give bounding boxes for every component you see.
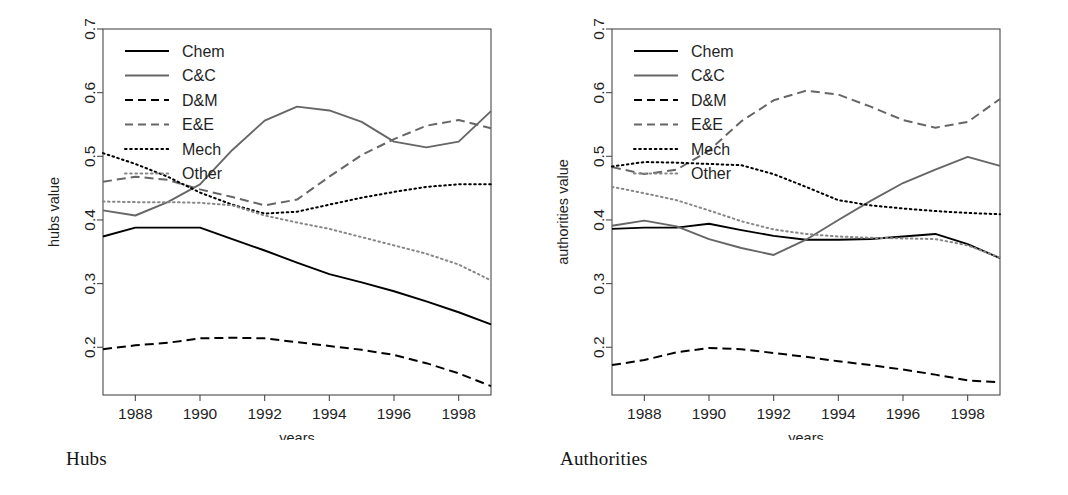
series-line-d-m xyxy=(103,338,491,386)
series-line-other xyxy=(612,187,1000,258)
x-axis-tick-label: 1998 xyxy=(950,405,984,422)
y-axis-tick-label: 0.2 xyxy=(590,336,607,358)
y-axis-title: hubs value xyxy=(46,177,62,247)
y-axis-tick-label: 0.3 xyxy=(590,273,607,295)
hubs-plot-svg: 0.20.30.40.50.60.71988199019921994199619… xyxy=(0,0,534,440)
y-axis-tick-label: 0.7 xyxy=(590,18,607,40)
figure-container: 0.20.30.40.50.60.71988199019921994199619… xyxy=(0,0,1068,495)
series-line-chem xyxy=(103,228,491,325)
x-axis-tick-label: 1994 xyxy=(312,405,347,422)
panel-caption-hubs: Hubs xyxy=(66,448,107,470)
legend-label: D&M xyxy=(182,92,218,109)
legend-label: Mech xyxy=(691,141,730,158)
series-line-other xyxy=(103,202,491,281)
legend-label: Other xyxy=(182,165,223,182)
y-axis-tick-label: 0.6 xyxy=(81,82,98,104)
series-line-e-e xyxy=(612,91,1000,174)
legend-label: C&C xyxy=(182,67,216,84)
chart-panel-hubs: 0.20.30.40.50.60.71988199019921994199619… xyxy=(0,0,534,495)
chart-panel-authorities: 0.20.30.40.50.60.71988199019921994199619… xyxy=(534,0,1068,495)
y-axis-title: authorities value xyxy=(555,159,571,265)
x-axis-tick-label: 1992 xyxy=(756,405,790,422)
legend-label: Chem xyxy=(182,43,225,60)
x-axis-tick-label: 1990 xyxy=(183,405,218,422)
x-axis-tick-label: 1998 xyxy=(441,405,475,422)
series-line-d-m xyxy=(612,348,1000,382)
x-axis-title: years xyxy=(788,430,823,440)
y-axis-tick-label: 0.2 xyxy=(81,336,98,358)
x-axis-tick-label: 1990 xyxy=(692,405,727,422)
y-axis-tick-label: 0.5 xyxy=(590,146,607,168)
x-axis-tick-label: 1996 xyxy=(377,405,411,422)
x-axis-title: years xyxy=(279,430,314,440)
legend-label: Mech xyxy=(182,141,221,158)
y-axis-tick-label: 0.3 xyxy=(81,273,98,295)
y-axis-tick-label: 0.5 xyxy=(81,146,98,168)
y-axis-tick-label: 0.7 xyxy=(81,18,98,40)
legend-label: E&E xyxy=(691,116,723,133)
series-line-e-e xyxy=(103,120,491,205)
panel-caption-authorities: Authorities xyxy=(560,448,648,470)
authorities-plot-svg: 0.20.30.40.50.60.71988199019921994199619… xyxy=(534,0,1068,440)
legend-label: D&M xyxy=(691,92,727,109)
x-axis-tick-label: 1988 xyxy=(118,405,152,422)
x-axis-tick-label: 1992 xyxy=(247,405,281,422)
x-axis-tick-label: 1988 xyxy=(627,405,661,422)
y-axis-tick-label: 0.6 xyxy=(590,82,607,104)
legend-label: Chem xyxy=(691,43,734,60)
x-axis-tick-label: 1994 xyxy=(821,405,856,422)
legend-label: E&E xyxy=(182,116,214,133)
legend-label: Other xyxy=(691,165,732,182)
y-axis-tick-label: 0.4 xyxy=(590,209,607,231)
legend-label: C&C xyxy=(691,67,725,84)
x-axis-tick-label: 1996 xyxy=(886,405,920,422)
y-axis-tick-label: 0.4 xyxy=(81,209,98,231)
